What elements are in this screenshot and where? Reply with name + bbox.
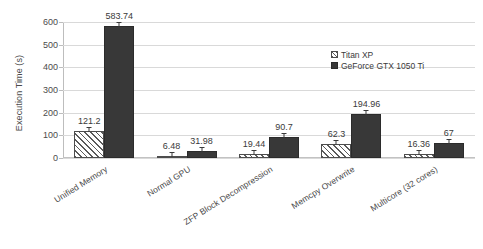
error-bar: [418, 151, 419, 155]
y-tick-label: 100: [43, 130, 58, 140]
bar-slot: 62.3: [321, 22, 351, 158]
bar-value-label: 62.3: [328, 129, 346, 139]
bar-value-label: 67: [444, 128, 454, 138]
bar-value-label: 6.48: [163, 141, 181, 151]
error-bar-cap: [199, 147, 204, 148]
plot-area: 0100200300400500600 121.2583.746.4831.98…: [63, 22, 475, 158]
legend-swatch-icon-series1: [331, 51, 338, 58]
bar[interactable]: 31.98: [187, 151, 217, 158]
bar[interactable]: 19.44: [239, 154, 269, 158]
bar[interactable]: 67: [434, 143, 464, 158]
bar[interactable]: 194.96: [351, 114, 381, 158]
bar-value-label: 90.7: [275, 122, 293, 132]
x-axis-labels: Unified MemoryNormal GPUZFP Block Decomp…: [63, 160, 475, 249]
error-bar-cap: [282, 133, 287, 134]
bar-value-label: 19.44: [243, 139, 266, 149]
legend-swatch-icon-series2: [331, 62, 338, 69]
x-axis-tick-label: Normal GPU: [145, 164, 192, 199]
error-bar-cap: [87, 127, 92, 128]
y-tick-label: 300: [43, 85, 58, 95]
error-bar: [119, 23, 120, 27]
bar-slot: 583.74: [104, 22, 134, 158]
error-bar: [336, 141, 337, 145]
bar-value-label: 194.96: [353, 99, 381, 109]
error-bar: [201, 148, 202, 152]
bar-group: 121.2583.74: [63, 22, 145, 158]
bar-slot: 16.36: [404, 22, 434, 158]
bar[interactable]: 6.48: [157, 156, 187, 158]
error-bar-cap: [117, 22, 122, 23]
error-bar: [448, 140, 449, 144]
bar-slot: 31.98: [187, 22, 217, 158]
bar[interactable]: 583.74: [104, 26, 134, 158]
bar[interactable]: 16.36: [404, 154, 434, 158]
bar-slot: 194.96: [351, 22, 381, 158]
error-bar-cap: [416, 150, 421, 151]
bar-value-label: 583.74: [105, 11, 133, 21]
bar-pair: 16.3667: [393, 22, 475, 158]
y-tick-label: 200: [43, 108, 58, 118]
bar[interactable]: 90.7: [269, 137, 299, 158]
error-bar: [89, 128, 90, 132]
bar-pair: 19.4490.7: [228, 22, 310, 158]
error-bar-cap: [169, 152, 174, 153]
y-tick-label: 500: [43, 40, 58, 50]
bar-pair: 6.4831.98: [145, 22, 227, 158]
bar-slot: 6.48: [157, 22, 187, 158]
error-bar-cap: [364, 110, 369, 111]
y-tick-label: 400: [43, 62, 58, 72]
bar[interactable]: 121.2: [74, 131, 104, 158]
error-bar: [254, 151, 255, 155]
bar-slot: 19.44: [239, 22, 269, 158]
legend: Titan XP GeForce GTX 1050 Ti: [331, 49, 424, 71]
y-tick-label: 0: [53, 153, 58, 163]
bar-slot: 67: [434, 22, 464, 158]
legend-item-titan-xp: Titan XP: [331, 49, 424, 60]
x-label-slot: Multicore (32 cores): [393, 160, 475, 249]
bar-group: 6.4831.98: [145, 22, 227, 158]
bar-slot: 90.7: [269, 22, 299, 158]
error-bar: [171, 153, 172, 157]
x-label-slot: Unified Memory: [63, 160, 145, 249]
error-bar: [284, 134, 285, 138]
bar-pair: 121.2583.74: [63, 22, 145, 158]
bar-value-label: 121.2: [78, 116, 101, 126]
bar-slot: 121.2: [74, 22, 104, 158]
gridline: [63, 158, 475, 159]
bar-groups: 121.2583.746.4831.9819.4490.762.3194.961…: [63, 22, 475, 158]
bar-pair: 62.3194.96: [310, 22, 392, 158]
legend-label-series2: GeForce GTX 1050 Ti: [341, 61, 424, 71]
y-tick-mark: [59, 158, 63, 159]
legend-label-series1: Titan XP: [341, 50, 373, 60]
x-axis-tick-label: Unified Memory: [53, 164, 110, 205]
bar-chart: Execution Time (s) 0100200300400500600 1…: [0, 0, 483, 249]
y-axis-title: Execution Time (s): [14, 23, 24, 163]
error-bar-cap: [446, 139, 451, 140]
bar-value-label: 16.36: [408, 139, 431, 149]
bar[interactable]: 62.3: [321, 144, 351, 158]
legend-item-geforce-gtx-1050-ti: GeForce GTX 1050 Ti: [331, 60, 424, 71]
bar-group: 19.4490.7: [228, 22, 310, 158]
error-bar-cap: [252, 150, 257, 151]
y-tick-label: 600: [43, 17, 58, 27]
bar-value-label: 31.98: [190, 136, 213, 146]
bar-group: 62.3194.96: [310, 22, 392, 158]
error-bar-cap: [334, 140, 339, 141]
error-bar: [366, 111, 367, 115]
bar-group: 16.3667: [393, 22, 475, 158]
